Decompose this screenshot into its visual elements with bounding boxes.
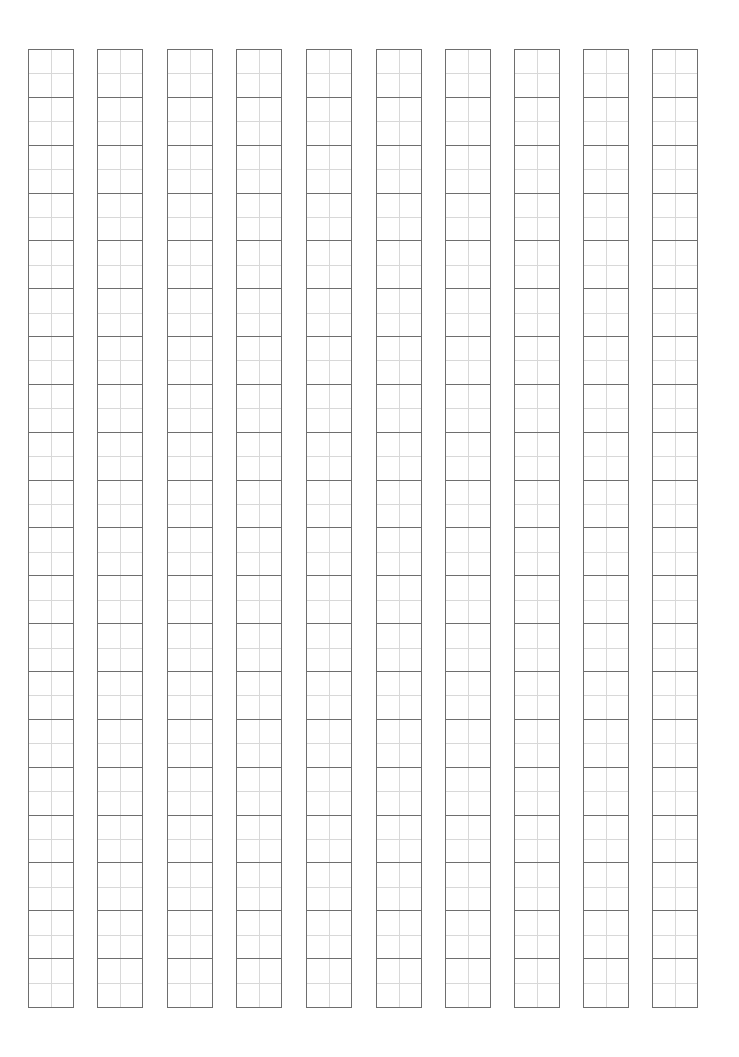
grid-cell bbox=[446, 959, 490, 1007]
grid-cell bbox=[307, 241, 351, 289]
grid-cell bbox=[237, 911, 281, 959]
grid-cell bbox=[168, 50, 212, 98]
grid-column-8 bbox=[514, 49, 560, 1008]
grid-cell bbox=[29, 624, 73, 672]
grid-cell bbox=[307, 959, 351, 1007]
grid-cell bbox=[515, 720, 559, 768]
grid-cell bbox=[29, 481, 73, 529]
grid-cell bbox=[584, 337, 628, 385]
grid-cell bbox=[515, 672, 559, 720]
grid-cell bbox=[98, 98, 142, 146]
grid-cell bbox=[584, 194, 628, 242]
grid-cell bbox=[98, 624, 142, 672]
grid-cell bbox=[377, 720, 421, 768]
grid-cell bbox=[98, 50, 142, 98]
grid-cell bbox=[653, 624, 697, 672]
grid-cell bbox=[446, 576, 490, 624]
grid-cell bbox=[307, 289, 351, 337]
grid-cell bbox=[29, 720, 73, 768]
grid-cell bbox=[584, 959, 628, 1007]
grid-cell bbox=[584, 433, 628, 481]
grid-cell bbox=[584, 911, 628, 959]
grid-cell bbox=[168, 768, 212, 816]
grid-cell bbox=[307, 146, 351, 194]
grid-column-3 bbox=[167, 49, 213, 1008]
grid-cell bbox=[446, 146, 490, 194]
grid-cell bbox=[237, 337, 281, 385]
grid-cell bbox=[515, 98, 559, 146]
grid-cell bbox=[29, 816, 73, 864]
grid-cell bbox=[377, 959, 421, 1007]
grid-cell bbox=[653, 50, 697, 98]
grid-cell bbox=[377, 98, 421, 146]
grid-cell bbox=[168, 194, 212, 242]
grid-cell bbox=[515, 576, 559, 624]
grid-cell bbox=[29, 911, 73, 959]
grid-cell bbox=[168, 911, 212, 959]
grid-cell bbox=[307, 768, 351, 816]
grid-cell bbox=[515, 863, 559, 911]
grid-cell bbox=[29, 241, 73, 289]
grid-cell bbox=[584, 481, 628, 529]
grid-cell bbox=[653, 720, 697, 768]
grid-cell bbox=[307, 50, 351, 98]
grid-cell bbox=[584, 624, 628, 672]
grid-cell bbox=[29, 959, 73, 1007]
grid-cell bbox=[168, 481, 212, 529]
grid-cell bbox=[377, 194, 421, 242]
grid-cell bbox=[584, 385, 628, 433]
grid-cell bbox=[168, 528, 212, 576]
grid-cell bbox=[168, 289, 212, 337]
grid-cell bbox=[29, 194, 73, 242]
grid-cell bbox=[237, 481, 281, 529]
grid-cell bbox=[98, 385, 142, 433]
grid-column-4 bbox=[236, 49, 282, 1008]
grid-cell bbox=[29, 146, 73, 194]
grid-cell bbox=[168, 863, 212, 911]
grid-cell bbox=[653, 768, 697, 816]
grid-cell bbox=[515, 816, 559, 864]
grid-cell bbox=[29, 433, 73, 481]
grid-cell bbox=[446, 98, 490, 146]
grid-cell bbox=[168, 241, 212, 289]
grid-cell bbox=[168, 146, 212, 194]
grid-cell bbox=[29, 50, 73, 98]
grid-cell bbox=[584, 768, 628, 816]
grid-cell bbox=[653, 863, 697, 911]
grid-cell bbox=[98, 863, 142, 911]
grid-cell bbox=[377, 528, 421, 576]
grid-cell bbox=[515, 337, 559, 385]
grid-cell bbox=[237, 98, 281, 146]
grid-cell bbox=[98, 816, 142, 864]
grid-cell bbox=[377, 289, 421, 337]
grid-cell bbox=[584, 289, 628, 337]
grid-cell bbox=[237, 528, 281, 576]
grid-cell bbox=[584, 863, 628, 911]
grid-cell bbox=[653, 672, 697, 720]
grid-cell bbox=[653, 241, 697, 289]
grid-cell bbox=[29, 768, 73, 816]
grid-cell bbox=[446, 289, 490, 337]
grid-cell bbox=[584, 672, 628, 720]
grid-cell bbox=[237, 289, 281, 337]
grid-cell bbox=[653, 194, 697, 242]
grid-cell bbox=[168, 816, 212, 864]
grid-cell bbox=[653, 337, 697, 385]
grid-cell bbox=[98, 481, 142, 529]
grid-cell bbox=[377, 816, 421, 864]
grid-cell bbox=[446, 624, 490, 672]
grid-cell bbox=[237, 50, 281, 98]
grid-cell bbox=[446, 241, 490, 289]
grid-cell bbox=[307, 911, 351, 959]
grid-cell bbox=[98, 528, 142, 576]
grid-cell bbox=[653, 576, 697, 624]
grid-cell bbox=[307, 481, 351, 529]
grid-cell bbox=[307, 528, 351, 576]
grid-cell bbox=[377, 50, 421, 98]
grid-cell bbox=[377, 146, 421, 194]
grid-cell bbox=[237, 385, 281, 433]
grid-column-7 bbox=[445, 49, 491, 1008]
grid-cell bbox=[584, 146, 628, 194]
grid-cell bbox=[98, 768, 142, 816]
grid-cell bbox=[377, 433, 421, 481]
